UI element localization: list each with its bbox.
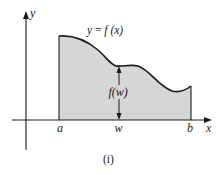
shaded-area-region: [59, 36, 191, 120]
tick-label-w: w: [115, 121, 123, 135]
y-axis-arrow-icon: [23, 11, 29, 19]
curve-label: y = f (x): [86, 24, 123, 37]
figure-caption: (i): [103, 153, 114, 166]
area-under-curve-diagram: y x y = f (x) f(w) a w b (i): [0, 0, 224, 175]
y-axis-label: y: [29, 6, 36, 20]
height-label: f(w): [109, 85, 128, 99]
tick-label-b: b: [187, 121, 193, 135]
tick-label-a: a: [57, 121, 63, 135]
x-axis-label: x: [205, 121, 212, 135]
